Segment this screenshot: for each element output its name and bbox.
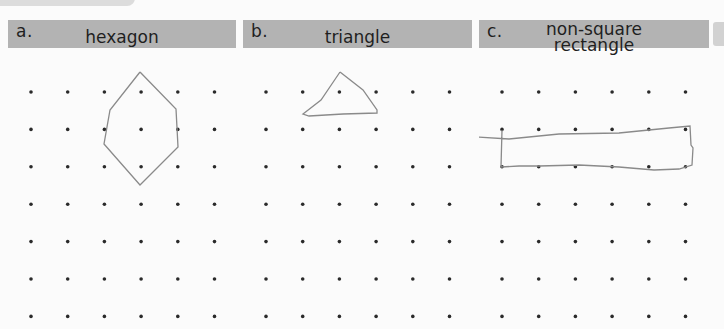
grid-dot[interactable] xyxy=(213,165,217,169)
grid-dot[interactable] xyxy=(139,202,143,206)
grid-dot[interactable] xyxy=(264,315,268,319)
grid-dot[interactable] xyxy=(684,240,688,244)
grid-dot[interactable] xyxy=(213,240,217,244)
grid-dot[interactable] xyxy=(176,165,180,169)
dot-grid-drawing-area[interactable] xyxy=(479,20,709,329)
grid-dot[interactable] xyxy=(411,90,415,94)
dot-grid-drawing-area[interactable] xyxy=(243,20,472,329)
grid-dot[interactable] xyxy=(647,202,651,206)
grid-dot[interactable] xyxy=(103,165,107,169)
grid-dot[interactable] xyxy=(139,165,143,169)
grid-dot[interactable] xyxy=(139,315,143,319)
grid-dot[interactable] xyxy=(448,277,452,281)
grid-dot[interactable] xyxy=(374,277,378,281)
grid-dot[interactable] xyxy=(500,202,504,206)
grid-dot[interactable] xyxy=(684,128,688,132)
grid-dot[interactable] xyxy=(684,90,688,94)
grid-dot[interactable] xyxy=(213,202,217,206)
grid-dot[interactable] xyxy=(29,315,33,319)
grid-dot[interactable] xyxy=(29,165,33,169)
grid-dot[interactable] xyxy=(213,277,217,281)
grid-dot[interactable] xyxy=(374,90,378,94)
grid-dot[interactable] xyxy=(264,240,268,244)
grid-dot[interactable] xyxy=(301,128,305,132)
grid-dot[interactable] xyxy=(500,277,504,281)
grid-dot[interactable] xyxy=(574,128,578,132)
grid-dot[interactable] xyxy=(448,90,452,94)
grid-dot[interactable] xyxy=(139,128,143,132)
grid-dot[interactable] xyxy=(411,315,415,319)
grid-dot[interactable] xyxy=(103,315,107,319)
grid-dot[interactable] xyxy=(448,165,452,169)
grid-dot[interactable] xyxy=(139,277,143,281)
grid-dot[interactable] xyxy=(537,240,541,244)
grid-dot[interactable] xyxy=(411,240,415,244)
grid-dot[interactable] xyxy=(301,240,305,244)
grid-dot[interactable] xyxy=(29,90,33,94)
grid-dot[interactable] xyxy=(264,277,268,281)
grid-dot[interactable] xyxy=(610,240,614,244)
grid-dot[interactable] xyxy=(301,165,305,169)
grid-dot[interactable] xyxy=(647,90,651,94)
grid-dot[interactable] xyxy=(338,277,342,281)
grid-dot[interactable] xyxy=(29,277,33,281)
grid-dot[interactable] xyxy=(411,202,415,206)
grid-dot[interactable] xyxy=(264,128,268,132)
grid-dot[interactable] xyxy=(610,90,614,94)
grid-dot[interactable] xyxy=(374,202,378,206)
grid-dot[interactable] xyxy=(374,315,378,319)
grid-dot[interactable] xyxy=(66,202,70,206)
grid-dot[interactable] xyxy=(66,277,70,281)
grid-dot[interactable] xyxy=(301,90,305,94)
grid-dot[interactable] xyxy=(29,202,33,206)
grid-dot[interactable] xyxy=(448,202,452,206)
grid-dot[interactable] xyxy=(139,240,143,244)
grid-dot[interactable] xyxy=(374,165,378,169)
grid-dot[interactable] xyxy=(500,240,504,244)
grid-dot[interactable] xyxy=(301,277,305,281)
grid-dot[interactable] xyxy=(103,202,107,206)
grid-dot[interactable] xyxy=(338,165,342,169)
grid-dot[interactable] xyxy=(66,315,70,319)
grid-dot[interactable] xyxy=(610,128,614,132)
grid-dot[interactable] xyxy=(574,202,578,206)
grid-dot[interactable] xyxy=(610,202,614,206)
grid-dot[interactable] xyxy=(537,277,541,281)
grid-dot[interactable] xyxy=(66,165,70,169)
grid-dot[interactable] xyxy=(176,277,180,281)
grid-dot[interactable] xyxy=(103,90,107,94)
grid-dot[interactable] xyxy=(29,240,33,244)
grid-dot[interactable] xyxy=(66,128,70,132)
grid-dot[interactable] xyxy=(448,315,452,319)
grid-dot[interactable] xyxy=(684,202,688,206)
grid-dot[interactable] xyxy=(374,128,378,132)
grid-dot[interactable] xyxy=(500,90,504,94)
grid-dot[interactable] xyxy=(264,202,268,206)
grid-dot[interactable] xyxy=(338,315,342,319)
grid-dot[interactable] xyxy=(139,90,143,94)
grid-dot[interactable] xyxy=(537,315,541,319)
grid-dot[interactable] xyxy=(103,128,107,132)
grid-dot[interactable] xyxy=(264,90,268,94)
grid-dot[interactable] xyxy=(684,277,688,281)
grid-dot[interactable] xyxy=(537,202,541,206)
grid-dot[interactable] xyxy=(647,277,651,281)
grid-dot[interactable] xyxy=(411,277,415,281)
grid-dot[interactable] xyxy=(338,240,342,244)
grid-dot[interactable] xyxy=(301,315,305,319)
grid-dot[interactable] xyxy=(574,240,578,244)
grid-dot[interactable] xyxy=(66,90,70,94)
dot-grid-drawing-area[interactable] xyxy=(8,20,236,329)
grid-dot[interactable] xyxy=(647,240,651,244)
grid-dot[interactable] xyxy=(176,90,180,94)
grid-dot[interactable] xyxy=(103,277,107,281)
grid-dot[interactable] xyxy=(338,202,342,206)
grid-dot[interactable] xyxy=(176,240,180,244)
grid-dot[interactable] xyxy=(66,240,70,244)
grid-dot[interactable] xyxy=(176,202,180,206)
grid-dot[interactable] xyxy=(647,165,651,169)
grid-dot[interactable] xyxy=(448,128,452,132)
grid-dot[interactable] xyxy=(103,240,107,244)
grid-dot[interactable] xyxy=(29,128,33,132)
grid-dot[interactable] xyxy=(610,315,614,319)
